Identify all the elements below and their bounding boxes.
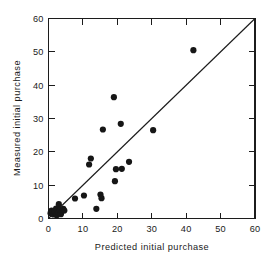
scatter-plot-svg: 0102030405060 0102030405060 Predicted in… [0,0,275,260]
top-axis-ticks [83,19,221,25]
x-tick-label-0: 0 [46,224,51,234]
x-axis-tick-labels: 0102030405060 [46,224,260,234]
y-tick-label-20: 20 [33,147,44,157]
data-point [190,47,196,53]
data-point [93,206,99,212]
y-axis-tick-labels: 0102030405060 [33,14,44,224]
y-axis-ticks [49,19,55,219]
x-tick-label-40: 40 [181,224,192,234]
x-tick-label-60: 60 [250,224,261,234]
data-point [113,166,119,172]
data-point [111,94,117,100]
x-axis-title: Predicted initial purchase [95,242,209,252]
data-point [126,159,132,165]
one-to-one-reference-line [49,19,256,219]
data-points-group [47,47,196,218]
data-point [61,207,67,213]
right-axis-ticks [249,52,255,185]
data-point [98,195,104,201]
data-point [86,161,92,167]
data-point [119,166,125,172]
data-point [81,192,87,198]
data-point [118,121,124,127]
data-point [150,127,156,133]
data-point [56,201,62,207]
y-axis-title: Measured initial purchase [12,60,22,176]
y-tick-label-30: 30 [33,114,44,124]
data-point [88,155,94,161]
y-tick-label-50: 50 [33,47,44,57]
data-point [100,126,106,132]
y-tick-label-0: 0 [38,214,43,224]
x-tick-label-20: 20 [112,224,123,234]
scatter-chart-figure: 0102030405060 0102030405060 Predicted in… [0,0,275,260]
x-axis-ticks [49,213,256,219]
x-tick-label-50: 50 [215,224,226,234]
x-tick-label-30: 30 [146,224,157,234]
data-point [72,195,78,201]
y-tick-label-10: 10 [33,181,44,191]
y-tick-label-40: 40 [33,81,44,91]
data-point [112,178,118,184]
y-tick-label-60: 60 [33,14,44,24]
x-tick-label-10: 10 [78,224,89,234]
